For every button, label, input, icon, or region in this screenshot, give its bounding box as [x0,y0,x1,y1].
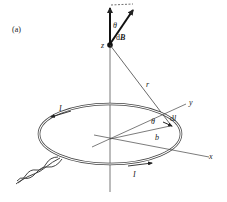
radius-b-line [110,126,170,139]
panel-label: (a) [12,25,21,34]
theta-loop-label: θ [151,117,155,126]
theta-top-label: θ [113,21,117,30]
y-label: y [188,98,193,107]
dB-label-d: dB [116,33,126,42]
x-label: x [208,152,213,161]
magnetic-field-loop-diagram: (a) θ dB z r y x b θ dl I I [0,0,227,202]
b-label: b [155,133,159,142]
current-label-top: I [58,104,62,113]
dl-label: dl [170,114,177,123]
z-label: z [100,41,105,50]
current-label-bottom: I [132,170,136,179]
r-label: r [146,80,150,89]
twisted-lead-wires [16,157,62,184]
x-axis [94,135,209,157]
dashed-projection-line [111,4,133,5]
